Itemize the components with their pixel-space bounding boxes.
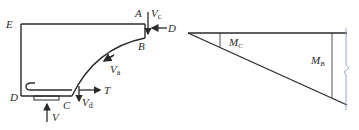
moment-diagram xyxy=(188,28,349,110)
force-arrow-va xyxy=(104,55,114,61)
force-label-d: D xyxy=(167,22,176,34)
force-label-t: T xyxy=(104,84,111,96)
moment-label-mc: MC xyxy=(228,36,243,50)
force-label-va: Va xyxy=(110,63,121,77)
diagram-canvas: E A B D C Vc D Va T Vd V MC MB xyxy=(0,0,359,130)
point-label-a: A xyxy=(134,7,142,19)
force-label-v: V xyxy=(52,111,60,123)
force-label-vd: Vd xyxy=(82,96,93,110)
moment-label-mb: MB xyxy=(310,54,325,68)
point-label-b: B xyxy=(138,40,145,52)
bracket-body xyxy=(21,24,145,100)
point-label-c: C xyxy=(63,99,71,111)
point-label-e: E xyxy=(5,18,13,30)
force-label-vc: Vc xyxy=(151,7,162,21)
point-label-d: D xyxy=(9,91,18,103)
break-line xyxy=(344,28,349,110)
